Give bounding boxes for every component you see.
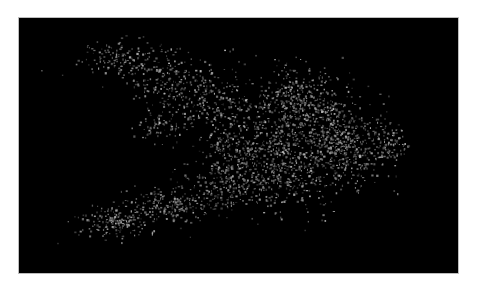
scatter-plot: [19, 18, 458, 273]
scatter-plot-panel: [18, 17, 459, 274]
data-points: [41, 35, 410, 244]
figure: [0, 0, 477, 289]
